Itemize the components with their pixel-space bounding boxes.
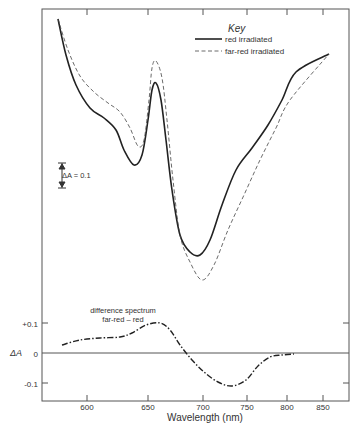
- x-tick-labels: 600650700750800850: [80, 403, 330, 412]
- legend-entry-red: red irradiated: [225, 35, 272, 44]
- y-tick-label-plus: +0.1: [22, 320, 38, 329]
- legend: Key red irradiated far-red irradiated: [195, 23, 284, 56]
- x-tick-label: 750: [240, 403, 254, 412]
- difference-annotation-line1: difference spectrum: [90, 306, 156, 315]
- difference-spectrum-curve: [62, 323, 294, 386]
- y-tick-label-zero: 0: [34, 350, 39, 359]
- y-axis-label: ΔA: [9, 348, 22, 358]
- far-red-irradiated-curve: [58, 19, 329, 280]
- absorption-spectrum-chart: +0.1 0 -0.1 ΔA 600650700750800850 Wavele…: [0, 0, 358, 430]
- x-tick-label: 700: [196, 403, 210, 412]
- x-tick-label: 650: [141, 403, 155, 412]
- legend-title: Key: [228, 23, 246, 34]
- x-axis-label: Wavelength (nm): [167, 412, 243, 423]
- x-axis-ticks: [87, 9, 323, 401]
- x-tick-label: 850: [316, 403, 330, 412]
- red-irradiated-curve: [58, 19, 329, 256]
- legend-entry-far-red: far-red irradiated: [225, 47, 284, 56]
- scale-bar-label: ΔA = 0.1: [62, 171, 91, 180]
- y-tick-label-minus: -0.1: [24, 380, 38, 389]
- x-tick-label: 800: [280, 403, 294, 412]
- x-tick-label: 600: [80, 403, 94, 412]
- difference-annotation-line2: far-red – red: [102, 315, 143, 324]
